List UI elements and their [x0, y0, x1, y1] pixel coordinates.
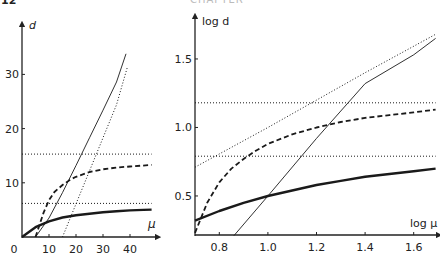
left-y-label: d [29, 19, 37, 32]
x-tick-label: 0.8 [211, 241, 229, 254]
series-thin-solid [36, 54, 127, 237]
x-tick-label: 1.6 [405, 241, 423, 254]
right-chart: log d log μ 0.81.01.21.41.60.51.01.5 [175, 15, 440, 254]
x-tick-label: 0 [11, 243, 18, 256]
right-series [195, 34, 436, 235]
x-tick-label: 1.2 [308, 241, 326, 254]
y-tick-label: 20 [5, 123, 19, 136]
x-tick-label: 40 [123, 243, 137, 256]
figure: d μ 010203040102030 log d log μ 0.81.01.… [0, 0, 440, 258]
x-tick-label: 10 [42, 243, 56, 256]
x-tick-label: 1.4 [356, 241, 374, 254]
left-chart: d μ 010203040102030 [5, 19, 158, 256]
left-ticks: 010203040102030 [5, 68, 137, 256]
x-tick-label: 1.0 [259, 241, 277, 254]
series-thin-solid [234, 38, 436, 235]
y-tick-label: 1.5 [175, 53, 193, 66]
y-tick-label: 30 [5, 68, 19, 81]
left-x-label: μ [147, 217, 156, 231]
right-y-label: log d [202, 15, 229, 28]
x-tick-label: 30 [96, 243, 110, 256]
left-series [22, 54, 152, 237]
right-x-label: log μ [410, 217, 437, 230]
series-thick-solid [195, 169, 436, 221]
y-tick-label: 0.5 [175, 190, 193, 203]
y-tick-label: 1.0 [175, 121, 193, 134]
series-dotted-diagonal [195, 34, 436, 167]
y-tick-label: 10 [5, 177, 19, 190]
series-dashed [195, 110, 436, 233]
right-ticks: 0.81.01.21.41.60.51.01.5 [175, 53, 423, 254]
series-dashed [36, 165, 152, 237]
x-tick-label: 20 [69, 243, 83, 256]
series-thick-solid [22, 210, 152, 237]
